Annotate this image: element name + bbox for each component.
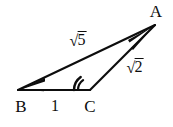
side-label-BA: √5 [70, 31, 87, 49]
radicand-value: 2 [134, 58, 143, 76]
radical-group-sqrt5: √5 [70, 31, 87, 49]
radical-group-sqrt2: √2 [127, 58, 144, 76]
angle-C-marker [74, 77, 83, 90]
vertex-label-B: B [15, 98, 26, 115]
geometry-figure: A B C √5 1 √2 [0, 0, 173, 127]
vertex-label-A: A [150, 3, 162, 20]
vertex-label-C: C [84, 98, 95, 115]
radicand-value: 5 [77, 31, 86, 49]
side-label-BC: 1 [51, 98, 59, 114]
side-label-CA: √2 [127, 58, 144, 76]
